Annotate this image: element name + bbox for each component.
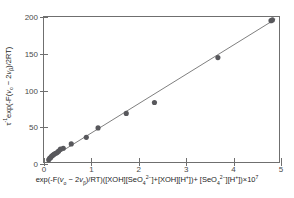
chart-figure: 050100150200 012345 exp(-F(vo − 2vβ)/RT)… bbox=[0, 0, 294, 198]
y-tick-mark-inner bbox=[44, 91, 48, 92]
x-tick-mark-inner bbox=[234, 158, 235, 162]
fit-line bbox=[47, 19, 275, 160]
x-tick-mark-inner bbox=[44, 158, 45, 162]
x-tick-label: 1 bbox=[89, 165, 93, 174]
data-point bbox=[69, 141, 74, 146]
x-tick-label: 2 bbox=[137, 165, 141, 174]
plot-area: 050100150200 012345 bbox=[43, 16, 280, 163]
data-point bbox=[215, 55, 220, 60]
y-tick-mark-inner bbox=[44, 54, 48, 55]
x-tick-label: 0 bbox=[42, 165, 46, 174]
data-point bbox=[95, 125, 100, 130]
x-tick-mark-inner bbox=[139, 158, 140, 162]
x-axis-title-text: exp(-F(vo − 2vβ)/RT)([XOH][SeO42−]+[XOH]… bbox=[36, 175, 259, 184]
y-tick-label: 50 bbox=[29, 123, 38, 132]
data-point bbox=[61, 146, 66, 151]
x-tick-mark-inner bbox=[91, 158, 92, 162]
x-tick-mark-inner bbox=[281, 158, 282, 162]
data-point bbox=[124, 111, 129, 116]
data-point bbox=[152, 100, 157, 105]
plot-canvas bbox=[44, 17, 279, 162]
y-axis-title: τ-1exp(-F(vo − 2vβ)/2RT) bbox=[5, 16, 13, 156]
y-tick-label: 200 bbox=[25, 13, 38, 22]
y-tick-label: 150 bbox=[25, 49, 38, 58]
y-axis-title-text: τ-1exp(-F(vo − 2vβ)/2RT) bbox=[4, 47, 13, 126]
y-tick-label: 100 bbox=[25, 86, 38, 95]
data-point bbox=[270, 17, 275, 22]
y-tick-mark-inner bbox=[44, 17, 48, 18]
x-axis-title: exp(-F(vo − 2vβ)/RT)([XOH][SeO42−]+[XOH]… bbox=[0, 176, 294, 184]
y-tick-mark-inner bbox=[44, 127, 48, 128]
y-tick-label: 0 bbox=[34, 160, 38, 169]
data-point bbox=[84, 135, 89, 140]
x-tick-label: 5 bbox=[279, 165, 283, 174]
x-tick-mark-inner bbox=[186, 158, 187, 162]
fit-line-segment bbox=[47, 19, 275, 160]
